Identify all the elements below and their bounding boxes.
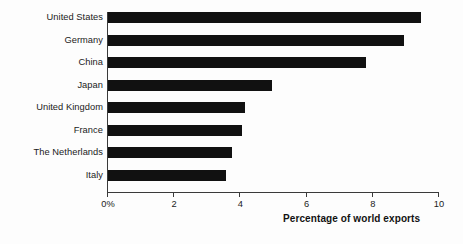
x-axis-tick-label: 2	[154, 199, 194, 210]
bar	[108, 80, 272, 91]
bar	[108, 125, 242, 136]
x-axis-tick	[173, 193, 174, 197]
category-label: Italy	[0, 170, 103, 181]
x-axis-tick-label: 0%	[88, 199, 128, 210]
category-axis-labels: United States Germany China Japan United…	[0, 12, 103, 192]
category-label: United States	[0, 12, 103, 23]
x-axis-title: Percentage of world exports	[283, 213, 420, 224]
bar	[108, 57, 366, 68]
bar	[108, 170, 226, 181]
x-axis-tick-label: 4	[220, 199, 260, 210]
x-axis-tick	[107, 193, 108, 197]
x-axis-tick-label: 8	[353, 199, 393, 210]
plot-area: 0% 2 4 6 8 10	[108, 12, 439, 192]
x-axis-tick	[438, 193, 439, 197]
x-axis-tick-label: 6	[287, 199, 327, 210]
category-label: Germany	[0, 35, 103, 46]
bar	[108, 102, 245, 113]
category-label: The Netherlands	[0, 147, 103, 158]
category-label: China	[0, 57, 103, 68]
bar	[108, 147, 232, 158]
category-label: Japan	[0, 80, 103, 91]
category-label: France	[0, 125, 103, 136]
x-axis-tick	[306, 193, 307, 197]
x-axis-tick	[372, 193, 373, 197]
bar-chart: United States Germany China Japan United…	[0, 0, 463, 244]
category-label: United Kingdom	[0, 102, 103, 113]
x-axis-tick	[239, 193, 240, 197]
x-axis-tick-label: 10	[419, 199, 459, 210]
bar	[108, 35, 404, 46]
x-axis-line	[107, 192, 439, 193]
bar	[108, 12, 421, 23]
